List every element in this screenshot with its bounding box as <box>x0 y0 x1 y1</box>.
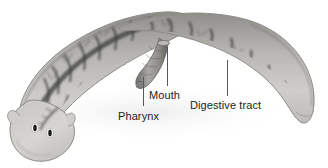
planarian-anatomy-figure: Pharynx Mouth Digestive tract <box>0 0 328 168</box>
label-digestive-tract: Digestive tract <box>190 99 261 111</box>
mouth-opening <box>158 40 170 45</box>
label-mouth: Mouth <box>149 89 180 101</box>
planarian-illustration <box>0 0 328 168</box>
label-pharynx: Pharynx <box>118 110 159 122</box>
